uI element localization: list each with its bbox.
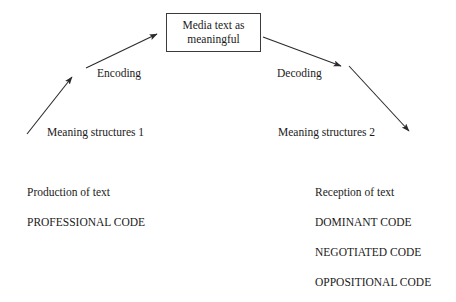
reception-column: Reception of text DOMINANT CODE NEGOTIAT… bbox=[315, 186, 431, 289]
reception-of-text-label: Reception of text bbox=[315, 186, 431, 199]
negotiated-code-label: NEGOTIATED CODE bbox=[315, 246, 431, 259]
arrow-encoding-to-media-text bbox=[86, 34, 157, 68]
media-text-node: Media text as meaningful bbox=[166, 13, 261, 52]
meaning-structures-2-label: Meaning structures 2 bbox=[278, 126, 375, 139]
decoding-label: Decoding bbox=[277, 67, 322, 80]
professional-code-label: PROFESSIONAL CODE bbox=[27, 216, 145, 229]
oppositional-code-label: OPPOSITIONAL CODE bbox=[315, 276, 431, 289]
media-text-node-label: Media text as meaningful bbox=[183, 19, 245, 46]
arrow-media-text-to-decoding bbox=[263, 37, 341, 66]
dominant-code-label: DOMINANT CODE bbox=[315, 216, 431, 229]
encoding-label: Encoding bbox=[97, 67, 141, 80]
arrow-decoding-to-meaning2 bbox=[349, 66, 409, 131]
diagram-canvas: Media text as meaningful Encoding Decodi… bbox=[0, 0, 456, 302]
meaning-structures-1-label: Meaning structures 1 bbox=[47, 126, 144, 139]
production-column: Production of text PROFESSIONAL CODE bbox=[27, 186, 145, 229]
production-of-text-label: Production of text bbox=[27, 186, 145, 199]
